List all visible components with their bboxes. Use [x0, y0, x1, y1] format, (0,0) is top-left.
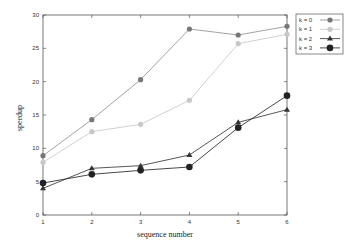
- y-tick-label: 10: [32, 145, 39, 151]
- legend-marker-icon: [327, 27, 332, 32]
- y-tick-label: 15: [32, 112, 39, 118]
- y-tick-label: 0: [36, 212, 40, 218]
- y-tick-label: 20: [32, 79, 39, 85]
- y-tick-label: 30: [32, 12, 39, 18]
- x-tick-label: 1: [41, 219, 45, 225]
- x-axis-label: sequence number: [137, 230, 193, 239]
- series-k-3: [40, 92, 291, 186]
- series-k-2: [40, 107, 290, 191]
- line-chart: 051015202530 123456 sequence number spee…: [0, 0, 358, 248]
- x-tick-label: 4: [188, 219, 192, 225]
- x-tick-label: 3: [139, 219, 143, 225]
- data-series: [40, 24, 291, 191]
- legend-marker-icon: [327, 45, 334, 52]
- x-tick-label: 6: [285, 219, 289, 225]
- legend-label: k = 2: [299, 36, 313, 42]
- series-k-1: [40, 32, 289, 165]
- legend-label: k = 1: [299, 26, 313, 32]
- x-tick-label: 5: [237, 219, 241, 225]
- y-tick-label: 25: [32, 45, 39, 51]
- legend: k = 0k = 1k = 2k = 3: [296, 14, 343, 54]
- y-axis-label: speedup: [15, 105, 24, 131]
- series-k-0: [40, 24, 289, 159]
- plot-frame: [43, 15, 287, 215]
- legend-label: k = 0: [299, 17, 313, 23]
- legend-label: k = 3: [299, 45, 313, 51]
- legend-marker-icon: [327, 17, 332, 22]
- x-tick-label: 2: [90, 219, 94, 225]
- x-axis: 123456: [41, 15, 289, 225]
- y-tick-label: 5: [36, 179, 40, 185]
